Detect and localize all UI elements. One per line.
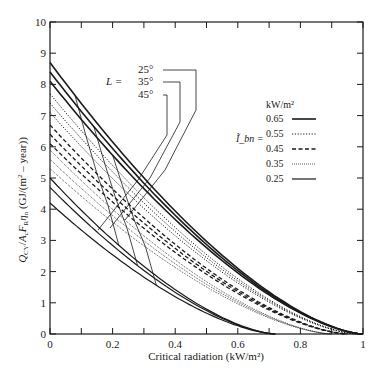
x-tick-label: 0 [47, 338, 53, 350]
y-tick-label: 7 [41, 110, 47, 122]
legend-label: 0.55 [266, 128, 284, 139]
y-tick-label: 10 [35, 16, 47, 28]
legend-entries: 0.650.550.450.350.25 [266, 113, 316, 184]
chart: 012345678910 00.20.40.60.81 Critical rad… [0, 0, 383, 382]
x-axis-label: Critical radiation (kW/m²) [148, 350, 264, 363]
legend-label: 0.45 [266, 143, 284, 154]
y-tick-label: 0 [41, 328, 47, 340]
curve-series-13 [50, 187, 275, 334]
y-tick-label: 8 [41, 78, 47, 90]
y-tick-label: 5 [41, 172, 47, 184]
latitude-prefix: L = [105, 75, 122, 87]
curve-series-11 [50, 169, 332, 334]
curve-series-1 [50, 72, 363, 334]
latitude-connector-2 [113, 155, 157, 285]
curve-series-12 [50, 178, 275, 334]
curves [50, 63, 363, 334]
x-tick-label: 1 [360, 338, 366, 350]
y-tick-label: 3 [41, 234, 47, 246]
y-tick-label: 4 [41, 203, 47, 215]
latitude-label-25: 25° [138, 63, 153, 75]
x-tick-label: 0.4 [168, 338, 182, 350]
curve-series-5 [50, 113, 357, 335]
legend: kW/m² Ĩ_bn = 0.650.550.450.350.25 [235, 99, 316, 184]
latitude-label-35: 35° [138, 75, 153, 87]
legend-unit: kW/m² [266, 99, 294, 110]
x-tick-label: 0.6 [231, 338, 245, 350]
latitude-connector-0 [75, 96, 119, 246]
legend-label: 0.35 [266, 158, 284, 169]
y-tick-label: 9 [41, 47, 47, 59]
y-tick-label: 2 [41, 266, 47, 278]
x-tick-label: 0.2 [106, 338, 120, 350]
y-axis-label: QCY/AcFRηn (GJ/(m2 – year)) [16, 137, 30, 263]
curve-series-2 [50, 81, 363, 334]
svg-text:QCY/AcFRηn (GJ/(m2 – year)): QCY/AcFRηn (GJ/(m2 – year)) [16, 137, 30, 263]
x-tick-label: 0.8 [294, 338, 308, 350]
y-axis-ticks: 012345678910 [35, 16, 363, 340]
legend-symbol: Ĩ_bn = [235, 133, 264, 144]
latitude-annotation: 25° L = 35° 45° [105, 63, 153, 100]
legend-label: 0.65 [266, 113, 284, 124]
latitude-label-45: 45° [138, 88, 153, 100]
curve-series-14 [50, 203, 275, 334]
y-tick-label: 6 [41, 141, 47, 153]
legend-label: 0.25 [266, 173, 284, 184]
curve-series-8 [50, 144, 347, 334]
curve-series-0 [50, 63, 363, 334]
y-tick-label: 1 [41, 297, 47, 309]
